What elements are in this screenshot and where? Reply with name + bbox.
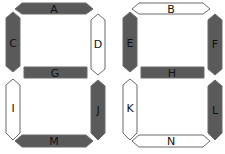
segment-label: F — [212, 38, 218, 51]
segment-j: J — [91, 80, 105, 140]
segment-c: C — [6, 12, 20, 72]
segment-h: H — [141, 67, 204, 80]
seven-segment-diagram: ACDGIJMBEFHKLN — [0, 0, 225, 154]
segment-d: D — [91, 14, 105, 75]
segment-label: E — [127, 37, 134, 50]
segment-label: K — [126, 102, 134, 115]
segment-label: I — [11, 102, 14, 115]
left-digit: ACDGIJM — [6, 3, 105, 148]
segment-label: H — [168, 67, 176, 80]
segment-label: N — [167, 135, 175, 148]
segment-e: E — [123, 12, 137, 72]
segment-label: M — [49, 135, 59, 148]
segment-n: N — [132, 135, 210, 148]
segment-label: B — [167, 3, 175, 16]
segment-f: F — [208, 14, 222, 75]
segment-label: C — [9, 37, 17, 50]
segment-i: I — [6, 79, 20, 140]
segment-label: D — [94, 38, 102, 51]
segment-label: L — [212, 104, 219, 117]
segment-a: A — [15, 3, 93, 16]
segment-k: K — [123, 79, 137, 140]
segment-b: B — [132, 3, 210, 16]
segment-g: G — [24, 67, 87, 80]
right-digit: BEFHKLN — [123, 3, 222, 148]
segment-label: A — [50, 3, 58, 16]
segment-m: M — [15, 135, 93, 148]
segment-label: G — [51, 67, 60, 80]
segment-label: J — [95, 104, 99, 117]
segment-l: L — [208, 80, 222, 140]
